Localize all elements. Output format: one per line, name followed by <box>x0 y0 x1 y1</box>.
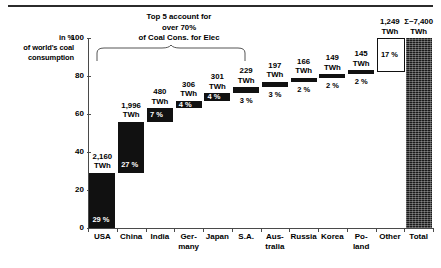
bar-percent-label: 27 % <box>121 160 138 169</box>
annotation-line1: Top 5 account for <box>104 12 254 23</box>
coal-consumption-waterfall-chart: in % of world's coal consumption Top 5 a… <box>0 0 441 268</box>
bar-total[interactable] <box>406 38 432 228</box>
bar-percent-label: 7 % <box>150 110 163 119</box>
x-axis-label-line2: many <box>165 242 213 252</box>
y-tick-label: 0 <box>44 223 84 232</box>
bar-percent-label: 17 % <box>381 50 398 59</box>
x-axis-label-line1: Total <box>395 232 441 242</box>
y-axis-label-line3: consumption <box>2 53 74 63</box>
y-tick-label: 80 <box>44 71 84 80</box>
y-tick <box>87 76 91 77</box>
bar-percent-label: 4 % <box>207 92 220 101</box>
header-divider <box>8 5 433 7</box>
bar-value-unit: TWh <box>391 27 441 37</box>
y-tick-label: 20 <box>44 185 84 194</box>
bar-value-label: Σ~7,400TWh <box>391 17 441 36</box>
y-tick-label: 60 <box>44 109 84 118</box>
y-tick <box>87 38 91 39</box>
x-axis-label-line2: land <box>337 242 385 252</box>
x-axis-label-line2: tralia <box>251 242 299 252</box>
annotation-line2: over 70% <box>104 23 254 34</box>
bar-value-number: Σ~7,400 <box>391 17 441 27</box>
y-axis-label-line2: of world's coal <box>2 43 74 53</box>
y-tick <box>87 114 91 115</box>
bar-poland[interactable] <box>348 70 374 74</box>
y-tick-label: 100 <box>44 33 84 42</box>
bar-percent-label: 4 % <box>179 100 192 109</box>
bar-percent-label: 29 % <box>92 215 109 224</box>
x-axis-label-total: Total <box>395 232 441 242</box>
plot-area: 020406080100 2,160TWh29 %1,996TWh27 %480… <box>88 38 433 228</box>
bar-percent-label: 2 % <box>341 77 381 86</box>
